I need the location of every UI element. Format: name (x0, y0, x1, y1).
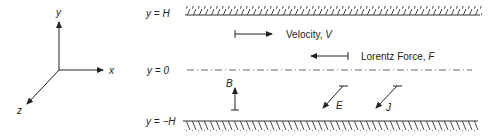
magnetic-field-vector: B (226, 78, 239, 110)
lorentz-force-vector: Lorentz Force, F (311, 51, 435, 62)
z-axis-arrow (27, 70, 59, 104)
magnetic-field-label: B (226, 78, 233, 89)
centerline: y = 0 (146, 65, 472, 76)
coordinate-axes: y x z (16, 7, 115, 116)
current-density-label: J (385, 102, 392, 113)
bottom-wall-label: y = −H (145, 116, 176, 127)
velocity-vector: Velocity, V (235, 29, 333, 40)
z-axis-label: z (16, 105, 22, 116)
x-axis-label: x (108, 65, 115, 76)
bottom-wall: y = −H (145, 116, 480, 131)
y-axis-label: y (55, 7, 62, 18)
electric-field-vector: E (323, 86, 348, 111)
current-density-vector: J (376, 86, 402, 113)
top-wall-label: y = H (145, 8, 170, 19)
top-wall: y = H (145, 6, 482, 19)
electric-field-label: E (336, 100, 343, 111)
velocity-label: Velocity, V (286, 29, 333, 40)
channel-flow-diagram: y x z y = H y = 0 y = −H Velocity, V Lor… (0, 0, 491, 140)
centerline-label: y = 0 (146, 65, 169, 76)
lorentz-force-label: Lorentz Force, F (361, 51, 435, 62)
